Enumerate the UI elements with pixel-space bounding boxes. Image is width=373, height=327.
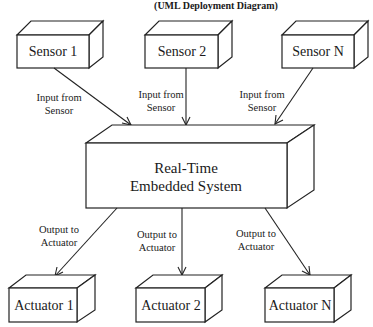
node-top-face xyxy=(17,21,103,35)
sensor-label: Sensor 1 xyxy=(29,44,78,59)
deployment-diagram: (UML Deployment Diagram) Sensor 1 Sensor… xyxy=(0,0,373,327)
edge-label: Output to xyxy=(236,228,276,239)
node-top-face xyxy=(145,21,232,35)
system-label-line2: Embedded System xyxy=(130,178,242,194)
edge-label: Output to xyxy=(137,229,177,240)
sensor-label: Sensor N xyxy=(292,44,344,59)
embedded-system-node: Real-Time Embedded System xyxy=(86,125,314,208)
actuator-node-1: Actuator 1 xyxy=(9,275,95,322)
edge-label: Sensor xyxy=(147,102,176,113)
edge-label: Output to xyxy=(39,224,79,235)
output-edge-n: Output to Actuator xyxy=(236,208,310,275)
edge-label: Sensor xyxy=(45,105,74,116)
input-edge-n: Input from Sensor xyxy=(239,68,313,124)
edge-label: Input from xyxy=(239,89,284,100)
node-top-face xyxy=(282,21,368,35)
sensor-node-1: Sensor 1 xyxy=(17,21,103,68)
diagram-title: (UML Deployment Diagram) xyxy=(154,0,278,12)
sensor-node-n: Sensor N xyxy=(282,21,368,68)
input-edge-1: Input from Sensor xyxy=(36,68,131,125)
sensor-node-2: Sensor 2 xyxy=(145,21,232,68)
edge-label: Actuator xyxy=(41,237,78,248)
edge-label: Sensor xyxy=(248,102,277,113)
edge-label: Actuator xyxy=(238,241,275,252)
actuator-label: Actuator N xyxy=(269,298,332,313)
node-top-face xyxy=(86,125,314,143)
actuator-node-n: Actuator N xyxy=(265,275,351,322)
input-edge-2: Input from Sensor xyxy=(138,68,190,125)
actuator-label: Actuator 2 xyxy=(141,298,200,313)
actuator-node-2: Actuator 2 xyxy=(136,275,222,322)
output-edge-2: Output to Actuator xyxy=(137,208,186,275)
actuator-label: Actuator 1 xyxy=(14,298,73,313)
edge-label: Actuator xyxy=(139,242,176,253)
output-edge-1: Output to Actuator xyxy=(39,208,117,276)
sensor-label: Sensor 2 xyxy=(158,44,207,59)
system-label-line1: Real-Time xyxy=(154,160,218,176)
edge-label: Input from xyxy=(138,89,183,100)
edge-label: Input from xyxy=(36,92,81,103)
